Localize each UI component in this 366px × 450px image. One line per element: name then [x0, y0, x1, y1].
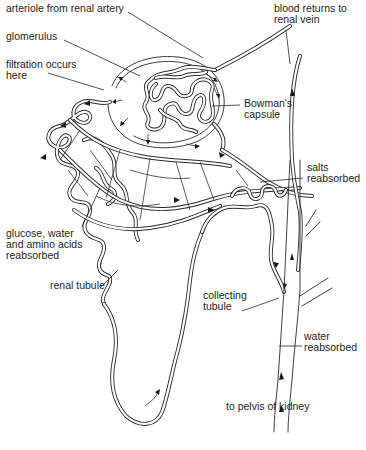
label-filtration: filtration occurs here	[6, 59, 77, 81]
collecting-tubule	[274, 160, 332, 432]
label-arteriole: arteriole from renal artery	[6, 3, 124, 14]
label-glomerulus: glomerulus	[6, 31, 57, 42]
label-bowmans-capsule: Bowman's capsule	[244, 98, 292, 120]
capillary-network	[60, 120, 312, 229]
label-renal-tubule: renal tubule	[50, 280, 105, 291]
loop-of-henle	[104, 232, 202, 424]
label-pelvis: to pelvis of kidney	[226, 401, 309, 412]
nephron-diagram: arteriole from renal artery glomerulus f…	[0, 0, 366, 450]
label-glucose: glucose, water and amino acids reabsorbe…	[6, 228, 82, 261]
label-collecting-tubule: collecting tubule	[203, 290, 247, 312]
arteriole-vessel	[215, 26, 290, 70]
distal-convoluted-tubule	[202, 205, 284, 292]
label-salts: salts reabsorbed	[307, 162, 360, 184]
label-water: water reabsorbed	[304, 331, 357, 353]
label-blood-returns: blood returns to renal vein	[274, 3, 347, 25]
